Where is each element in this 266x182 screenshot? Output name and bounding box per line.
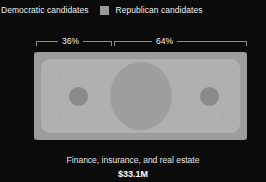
dollar-bill-left-seal-icon [69,87,88,106]
legend-label-republican: Republican candidates [116,5,203,15]
dollar-bill-right-seal-icon [200,87,219,106]
bracket-republican [114,41,247,52]
dollar-bill-corner-bottom-right: 1 [220,111,225,121]
chart-container: Democratic candidates Republican candida… [0,0,266,182]
chart-legend: Democratic candidates Republican candida… [0,2,266,18]
percentage-bracket-row: 36% 64% [36,36,247,52]
legend-label-democratic: Democratic candidates [1,5,89,15]
chart-caption: Finance, insurance, and real estate $33.… [0,155,266,180]
caption-category-label: Finance, insurance, and real estate [0,155,266,166]
dollar-bill-corner-top-right: 1 [220,73,225,83]
legend-swatch-republican-icon [100,6,109,15]
dollar-bill-corner-bottom-left: 1 [57,111,62,121]
dollar-bill-graphic: 1 1 1 1 [34,52,247,140]
legend-item-republican[interactable]: Republican candidates [100,2,203,18]
dollar-bill-portrait-icon [110,62,172,130]
caption-amount-value: $33.1M [0,169,266,180]
percentage-label-republican: 64% [152,36,177,47]
dollar-bill-outer-border: 1 1 1 1 [34,52,247,140]
percentage-label-democratic: 36% [58,36,83,47]
dollar-bill-inner-field: 1 1 1 1 [41,59,240,133]
legend-item-democratic[interactable]: Democratic candidates [1,2,89,18]
dollar-bill-corner-top-left: 1 [57,73,62,83]
